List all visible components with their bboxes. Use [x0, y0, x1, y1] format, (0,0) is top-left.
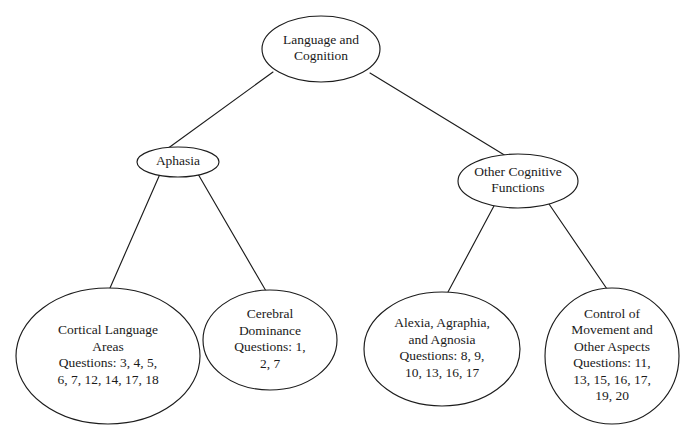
tree-node-root[interactable]: Language andCognition	[262, 16, 380, 82]
tree-diagram-canvas: Language andCognitionAphasiaOther Cognit…	[0, 0, 681, 435]
node-label-line: Questions: 1,	[234, 339, 305, 354]
tree-edge-other-cognitive-functions-to-alexia	[448, 204, 495, 292]
tree-node-cortical-language-areas[interactable]: Cortical LanguageAreasQuestions: 3, 4, 5…	[16, 288, 200, 424]
node-label-line: Other Cognitive	[474, 164, 561, 179]
tree-diagram: Language andCognitionAphasiaOther Cognit…	[0, 0, 681, 435]
node-label-line: 6, 7, 12, 14, 17, 18	[57, 372, 159, 387]
node-label-line: Functions	[491, 180, 544, 195]
tree-edge-root-to-other-cognitive-functions	[370, 73, 506, 156]
node-label-line: Aphasia	[156, 153, 200, 168]
node-label-line: Alexia, Agraphia,	[394, 315, 490, 330]
node-label-line: Dominance	[239, 323, 301, 338]
node-label-line: 13, 15, 16, 17,	[573, 372, 651, 387]
tree-node-other-cognitive-functions[interactable]: Other CognitiveFunctions	[458, 154, 578, 208]
tree-edge-root-to-aphasia	[167, 72, 273, 149]
tree-node-cerebral-dominance[interactable]: CerebralDominanceQuestions: 1,2, 7	[203, 290, 337, 390]
node-label-line: Questions: 11,	[573, 355, 651, 370]
tree-node-alexia-agraphia-agnosia[interactable]: Alexia, Agraphia,and AgnosiaQuestions: 8…	[364, 292, 520, 406]
node-label-line: Questions: 3, 4, 5,	[59, 355, 157, 370]
node-label-root: Language andCognition	[283, 32, 359, 64]
node-label-line: Areas	[92, 339, 123, 354]
tree-node-aphasia[interactable]: Aphasia	[137, 147, 219, 177]
node-label-line: Cerebral	[247, 306, 294, 321]
node-label-line: 19, 20	[595, 388, 629, 403]
node-label-line: Movement and	[571, 322, 653, 337]
node-label-line: 2, 7	[260, 356, 281, 371]
node-label-line: Cognition	[294, 48, 348, 63]
tree-edge-other-cognitive-functions-to-control-of-movement	[549, 204, 607, 289]
nodes-layer: Language andCognitionAphasiaOther Cognit…	[16, 16, 679, 424]
tree-edge-aphasia-to-cortical-language-areas	[110, 174, 160, 288]
node-label-line: and Agnosia	[408, 332, 475, 347]
node-label-aphasia: Aphasia	[156, 153, 200, 168]
node-label-cortical-language-areas: Cortical LanguageAreasQuestions: 3, 4, 5…	[57, 322, 159, 387]
node-label-line: Language and	[283, 32, 359, 47]
node-label-line: 10, 13, 16, 17	[405, 365, 480, 380]
tree-node-control-of-movement[interactable]: Control ofMovement andOther AspectsQuest…	[545, 288, 679, 424]
node-label-line: Other Aspects	[574, 339, 650, 354]
tree-edge-aphasia-to-cerebral-dominance	[198, 174, 266, 291]
node-label-line: Questions: 8, 9,	[400, 348, 485, 363]
node-label-alexia-agraphia-agnosia: Alexia, Agraphia,and AgnosiaQuestions: 8…	[394, 315, 490, 380]
node-label-line: Cortical Language	[58, 322, 158, 337]
node-label-line: Control of	[584, 306, 640, 321]
